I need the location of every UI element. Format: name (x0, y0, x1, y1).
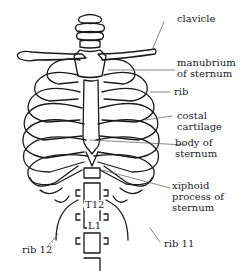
left-ribs (23, 59, 88, 202)
label-l1: L1 (87, 221, 102, 231)
label-clavicle: clavicle (177, 13, 215, 24)
label-xiphoid-process: xiphoid process of sternum (172, 180, 224, 213)
sternum-body (83, 80, 100, 154)
label-costal-cartilage: costal cartilage (177, 110, 222, 132)
label-rib-12: rib 12 (22, 244, 52, 255)
label-body-of-sternum: body of sternum (175, 137, 217, 159)
rib-12-right (106, 200, 128, 240)
rib-12-left (56, 200, 78, 240)
cervical-vertebrae (76, 15, 105, 49)
label-rib: rib (174, 86, 188, 97)
leader-lines (48, 22, 185, 246)
label-manubrium: manubrium of sternum (177, 57, 236, 79)
label-rib-11: rib 11 (164, 238, 194, 249)
thoracic-cage-diagram: clavicle manubrium of sternum rib costal… (0, 0, 241, 271)
right-ribs (94, 59, 159, 202)
label-t12: T12 (84, 200, 105, 210)
rib-cage-drawing (0, 0, 241, 271)
